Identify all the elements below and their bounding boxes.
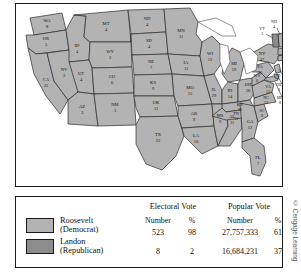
candidate-party: (Republican) — [60, 247, 103, 256]
copyright-credit: © Cengage Learning — [287, 200, 299, 276]
votes-CA: 22 — [44, 83, 48, 88]
lake-superior — [198, 18, 236, 36]
label-NM: NM — [111, 102, 118, 107]
column-header-popular-percent: % — [270, 216, 286, 225]
roosevelt-popular-number: 27,757,333 — [212, 228, 268, 237]
state-FL[interactable] — [242, 138, 266, 176]
label-OH: OH — [245, 82, 252, 87]
us-electoral-map: WA 8 OR 5 CA 22 NV 3 ID 4 MT 4 WY 3 UT 4… — [16, 4, 282, 186]
label-PA: PA — [257, 64, 263, 69]
label-IA: IA — [184, 60, 190, 65]
label-UT: UT — [78, 71, 84, 76]
roosevelt-popular-percent: 61 — [270, 228, 286, 237]
label-IL: IL — [212, 87, 217, 92]
label-AR: AR — [191, 111, 198, 116]
map-panel: WA 8 OR 5 CA 22 NV 3 ID 4 MT 4 WY 3 UT 4… — [15, 3, 283, 187]
democrat-swatch — [26, 218, 54, 233]
roosevelt-electoral-percent: 98 — [182, 228, 202, 237]
label-OK: OK — [153, 100, 160, 105]
votes-VA: 11 — [266, 89, 270, 94]
candidate-party: (Democrat) — [60, 226, 98, 235]
label-KS: KS — [150, 80, 156, 85]
votes-GA: 12 — [248, 125, 252, 130]
landon-popular-number: 16,684,231 — [212, 247, 268, 256]
votes-MD: 8 — [279, 100, 281, 105]
landon-electoral-number: 8 — [138, 247, 178, 256]
column-header-popular-number: Number — [212, 216, 268, 225]
votes-MN: 11 — [179, 34, 183, 39]
label-LA: LA — [193, 133, 200, 138]
votes-SC: 8 — [261, 113, 263, 118]
votes-WV: 8 — [256, 78, 258, 83]
label-MS: MS — [217, 113, 224, 118]
column-header-electoral-number: Number — [138, 216, 178, 225]
state-VT[interactable] — [272, 34, 279, 47]
electoral-map-figure: WA 8 OR 5 CA 22 NV 3 ID 4 MT 4 WY 3 UT 4… — [0, 0, 301, 280]
votes-NH: 4 — [273, 24, 275, 29]
state-OR[interactable] — [26, 30, 69, 54]
label-NY: NY — [259, 51, 266, 56]
label-MN: MN — [177, 28, 185, 33]
popular-vote-group-header: Popular Vote — [212, 202, 286, 211]
label-ND: ND — [144, 16, 151, 21]
column-header-electoral-percent: % — [182, 216, 202, 225]
label-WA: WA — [43, 18, 51, 23]
label-WI: WI — [207, 51, 213, 56]
candidate-name: Landon — [60, 237, 85, 246]
label-FL: FL — [255, 155, 261, 160]
label-MI: MI — [231, 61, 237, 66]
label-AZ: AZ — [79, 104, 85, 109]
landon-popular-percent: 37 — [270, 247, 286, 256]
legend-panel: Electoral Vote Popular Vote Number % Num… — [15, 196, 283, 268]
label-NE: NE — [148, 59, 154, 64]
label-ID: ID — [75, 43, 81, 48]
label-MT: MT — [103, 21, 110, 26]
state-CT[interactable] — [278, 55, 282, 61]
votes-WI: 12 — [208, 57, 212, 62]
label-SD: SD — [146, 38, 153, 43]
label-WY: WY — [106, 49, 114, 54]
state-LA[interactable] — [182, 126, 218, 154]
label-GA: GA — [247, 119, 254, 124]
label-IN: IN — [228, 88, 234, 93]
candidate-name: Roosevelt — [60, 216, 93, 225]
republican-swatch — [26, 239, 54, 254]
votes-TN: 11 — [234, 116, 238, 121]
label-MO: MO — [186, 85, 194, 90]
votes-OK: 11 — [154, 106, 158, 111]
state-NJ[interactable] — [274, 64, 281, 73]
votes-NC: 13 — [264, 100, 268, 105]
electoral-vote-group-header: Electoral Vote — [142, 202, 204, 211]
label-NV: NV — [61, 67, 68, 72]
label-CO: CO — [109, 74, 116, 79]
landon-electoral-percent: 2 — [182, 247, 202, 256]
label-CA: CA — [43, 77, 50, 82]
votes-IA: 11 — [184, 66, 188, 71]
votes-VT: 3 — [261, 31, 263, 36]
label-OR: OR — [43, 36, 50, 41]
candidate-roosevelt: Roosevelt (Democrat) — [60, 217, 98, 234]
candidate-landon: Landon (Republican) — [60, 238, 103, 255]
label-TX: TX — [155, 132, 162, 137]
roosevelt-electoral-number: 523 — [138, 228, 178, 237]
